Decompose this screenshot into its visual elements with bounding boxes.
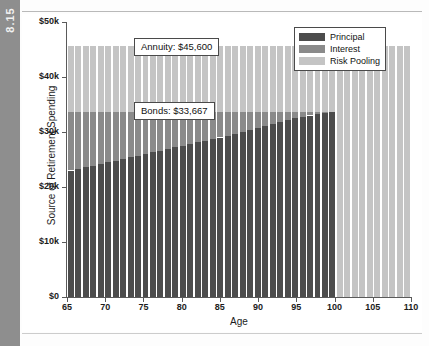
bar-segment-interest [322,112,328,113]
y-tick-label: $20k [39,182,59,191]
annotation-annuity: Annuity: $45,600 [134,38,219,56]
bar-segment-principal [180,146,186,297]
bar-segment-risk-pooling [68,46,74,112]
bar-segment-principal [225,136,231,297]
bar-segment-principal [329,112,335,297]
bar-segment-risk-pooling [382,46,388,297]
bar-age-88 [240,22,246,297]
y-tick-mark [62,297,66,298]
bar-segment-principal [150,152,156,297]
legend-label: Risk Pooling [330,57,380,66]
legend-swatch [299,45,325,53]
bar-segment-principal [307,116,313,298]
x-axis-title: Age [67,316,411,327]
bar-segment-principal [255,128,261,297]
bar-segment-risk-pooling [255,46,261,112]
bar-segment-principal [165,149,171,297]
bar-segment-interest [75,112,81,169]
bar-segment-principal [135,156,141,297]
x-tick-label: 65 [52,303,82,312]
bar-segment-risk-pooling [262,46,268,112]
bar-age-71 [113,22,119,297]
bar-segment-risk-pooling [240,46,246,112]
bar-segment-risk-pooling [98,46,104,112]
bar-segment-principal [217,138,223,298]
bar-segment-principal [247,130,253,297]
bar-segment-risk-pooling [397,46,403,297]
bar-segment-interest [83,112,89,167]
bar-segment-interest [270,112,276,124]
bar-segment-risk-pooling [374,46,380,297]
bar-age-70 [105,22,111,297]
legend-swatch [299,33,325,41]
bar-segment-risk-pooling [232,46,238,112]
annotation-bonds: Bonds: $33,667 [134,102,215,120]
bar-segment-interest [247,112,253,130]
legend-item-risk-pooling: Risk Pooling [299,55,380,67]
bar-segment-principal [172,147,178,297]
bar-segment-interest [262,112,268,126]
y-tick-label: $30k [39,127,59,136]
bar-segment-principal [262,126,268,297]
bar-segment-risk-pooling [128,46,134,112]
x-tick-label: 95 [281,303,311,312]
bar-segment-risk-pooling [270,46,276,112]
legend-item-principal: Principal [299,31,380,43]
bar-segment-interest [105,112,111,162]
bar-segment-principal [300,117,306,297]
bar-segment-interest [300,112,306,117]
bar-age-69 [98,22,104,297]
bar-segment-interest [232,112,238,134]
bar-age-74 [135,22,141,297]
legend-item-interest: Interest [299,43,380,55]
y-tick-label: $0 [49,292,59,301]
bar-segment-interest [307,112,313,116]
y-tick-mark [62,22,66,23]
bar-segment-principal [277,122,283,297]
bar-age-72 [120,22,126,297]
bar-segment-interest [98,112,104,164]
legend-swatch [299,57,325,65]
bar-age-78 [165,22,171,297]
bar-age-110 [404,22,410,297]
bar-segment-interest [90,112,96,166]
bar-age-82 [195,22,201,297]
page-bottom-rule [22,333,422,334]
bar-age-90 [255,22,261,297]
bar-segment-principal [232,134,238,297]
bar-segment-risk-pooling [285,46,291,112]
bar-segment-principal [315,114,321,297]
page-top-rule [22,11,422,12]
bar-segment-principal [322,113,328,297]
bar-segment-principal [113,161,119,297]
bar-age-76 [150,22,156,297]
bar-segment-risk-pooling [90,46,96,112]
y-tick-label: $50k [39,17,59,26]
x-tick-label: 110 [396,303,426,312]
x-tick-label: 70 [90,303,120,312]
bar-age-80 [180,22,186,297]
bar-age-81 [187,22,193,297]
bar-segment-interest [68,112,74,171]
bar-segment-principal [128,157,134,297]
bar-age-93 [277,22,283,297]
bar-age-65 [68,22,74,297]
bar-segment-principal [105,162,111,297]
y-tick-mark [62,187,66,188]
bar-segment-principal [157,151,163,297]
bar-segment-risk-pooling [344,46,350,297]
chart: Source of Retirement Spending Age $0$10k… [22,14,422,332]
y-tick-mark [62,132,66,133]
bar-age-109 [397,22,403,297]
bar-segment-principal [120,159,126,297]
bar-age-89 [247,22,253,297]
bar-segment-interest [120,112,126,159]
legend-label: Interest [330,45,360,54]
bar-age-75 [143,22,149,297]
bar-segment-risk-pooling [337,46,343,297]
bar-segment-risk-pooling [389,46,395,297]
bar-age-66 [75,22,81,297]
bar-segment-principal [285,120,291,297]
y-tick-label: $10k [39,237,59,246]
bar-age-73 [128,22,134,297]
